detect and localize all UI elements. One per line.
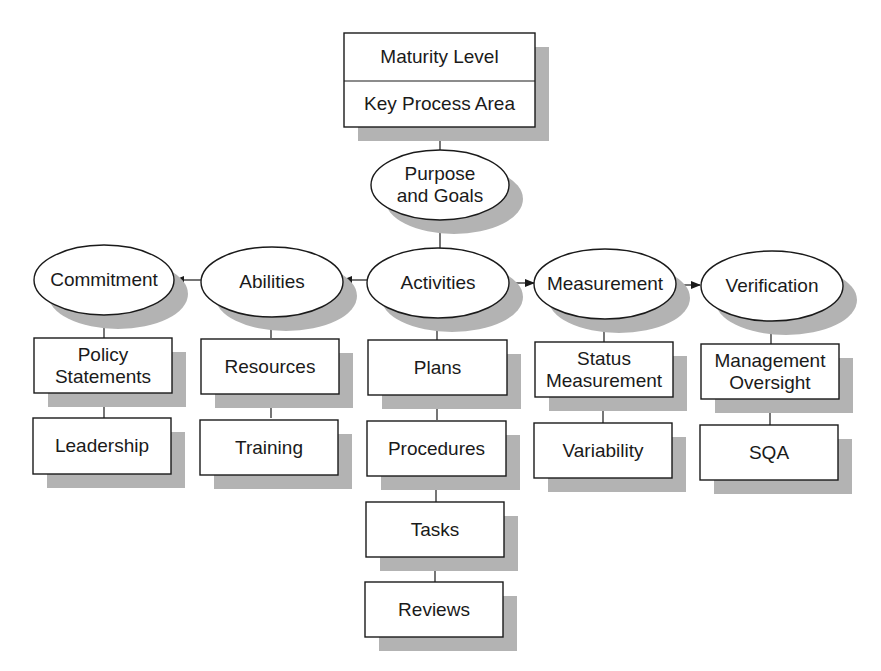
resources-label: Resources <box>201 339 339 394</box>
purpose-goals-label: Purpose and Goals <box>371 150 509 220</box>
measurement-label: Measurement <box>534 249 676 319</box>
reviews-label: Reviews <box>365 582 503 637</box>
plans-label: Plans <box>368 340 507 395</box>
maturity-level-label: Maturity Level <box>344 33 535 81</box>
policy-statements-label: Policy Statements <box>34 338 172 393</box>
training-label: Training <box>200 420 338 475</box>
management-oversight-label: Management Oversight <box>701 344 839 399</box>
verification-label: Verification <box>701 251 843 321</box>
leadership-label: Leadership <box>33 418 171 474</box>
commitment-label: Commitment <box>34 245 174 315</box>
status-measurement-label: Status Measurement <box>535 342 673 397</box>
procedures-label: Procedures <box>367 421 506 476</box>
tasks-label: Tasks <box>366 502 504 557</box>
activities-label: Activities <box>367 248 509 318</box>
key-process-area-label: Key Process Area <box>344 81 535 127</box>
variability-label: Variability <box>534 423 672 478</box>
sqa-label: SQA <box>700 425 838 480</box>
abilities-label: Abilities <box>201 247 343 317</box>
